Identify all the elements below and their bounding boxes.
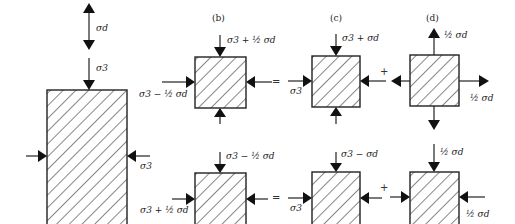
arrow-down-icon [330, 163, 342, 172]
element-c-upper [312, 56, 360, 107]
plus-sign-lower: + [380, 182, 388, 193]
label-c-left-lower: σ3 [290, 203, 302, 213]
label-d-right-lower: ½ σd [466, 209, 490, 219]
arrow-right-icon [26, 150, 47, 162]
label-c-top-upper: σ3 + σd [342, 33, 379, 43]
label-b-left-upper: σ3 − ½ σd [139, 89, 188, 99]
label-b-left-lower: σ3 + ½ σd [140, 205, 189, 215]
arrow-right-icon [186, 76, 195, 88]
label-sigma-3-top: σ3 [96, 63, 108, 73]
arrow-up-icon [214, 108, 226, 117]
label-c-top-lower: σ3 − σd [341, 149, 378, 159]
element-d-upper [410, 55, 459, 106]
panel-a-specimen: σd σ3 σ3 [26, 3, 152, 224]
arrow-up-icon [330, 107, 342, 116]
arrow-right-icon [303, 192, 312, 204]
equals-sign-lower: = [272, 192, 280, 203]
arrow-left-icon [246, 193, 255, 205]
panel-c-lower: σ3 − σd σ3 [288, 149, 382, 224]
plus-sign-upper: + [380, 66, 388, 77]
element-d-lower [410, 172, 459, 224]
arrow-down-icon [214, 47, 226, 57]
panel-d-upper: (d) ½ σd ½ σd [391, 13, 494, 130]
arrow-left-icon [459, 191, 468, 203]
label-c-left-upper: σ3 [290, 86, 302, 96]
arrow-right-icon [186, 193, 195, 205]
arrow-left-icon [246, 76, 255, 88]
arrow-down-icon [428, 162, 440, 172]
equals-sign-upper: = [272, 76, 280, 87]
arrow-right-icon [401, 191, 410, 203]
arrow-down-icon [214, 164, 226, 173]
deviator-double-arrow-icon [83, 3, 95, 50]
panel-label-b: (b) [212, 13, 225, 23]
arrow-right-icon [479, 75, 489, 87]
arrow-down-icon [330, 46, 342, 56]
panel-d-lower: ½ σd ½ σd [390, 144, 490, 224]
specimen-box [47, 90, 127, 224]
arrow-down-icon [428, 120, 440, 130]
panel-b-upper: (b) σ3 + ½ σd σ3 − ½ σd [139, 13, 276, 124]
label-sigma-3-right: σ3 [140, 161, 152, 171]
panel-b-lower: σ3 − ½ σd σ3 + ½ σd [140, 151, 275, 224]
stress-decomposition-diagram: σd σ3 σ3 (b) σ3 + ½ σd σ3 − ½ σd [0, 0, 515, 224]
panel-label-c: (c) [330, 13, 342, 23]
arrow-right-icon [303, 75, 312, 87]
element-b-upper [195, 57, 246, 108]
element-b-lower [195, 173, 246, 224]
panel-label-d: (d) [426, 13, 439, 23]
label-b-top-lower: σ3 − ½ σd [226, 151, 275, 161]
panel-c-upper: (c) σ3 + σd σ3 [288, 13, 386, 124]
label-sigma-d: σd [96, 23, 108, 33]
arrow-left-icon [360, 192, 369, 204]
arrow-left-icon [360, 75, 369, 87]
element-c-lower [312, 172, 360, 224]
label-d-top-lower: ½ σd [440, 147, 464, 157]
label-d-top-upper: ½ σd [444, 30, 468, 40]
arrow-left-icon [391, 75, 401, 87]
label-d-right-upper: ½ σd [470, 93, 494, 103]
arrow-down-icon [83, 58, 95, 90]
label-b-top-upper: σ3 + ½ σd [227, 35, 276, 45]
